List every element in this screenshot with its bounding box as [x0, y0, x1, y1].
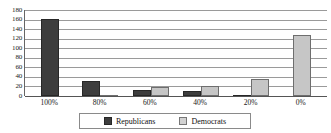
bar-group	[75, 10, 125, 96]
y-axis: 180160140120100806040200	[0, 0, 22, 104]
y-axis-tick-label: 40	[0, 73, 22, 80]
y-axis-tick-label: 180	[0, 7, 22, 14]
bar-republicans-100pct	[41, 19, 59, 96]
legend-label-democrats: Democrats	[191, 117, 226, 126]
bars-layer	[25, 10, 327, 96]
bar-group	[126, 10, 176, 96]
y-axis-tick-label: 160	[0, 16, 22, 23]
plot-wrapper: 180160140120100806040200 100%80%60%40%20…	[0, 0, 331, 104]
republicans-swatch-icon	[104, 117, 112, 125]
bar-chart: 180160140120100806040200 100%80%60%40%20…	[0, 0, 331, 133]
x-axis-tick-label: 40%	[193, 98, 207, 107]
bar-democrats-60pct	[151, 87, 169, 96]
bar-democrats-40pct	[201, 86, 219, 96]
x-axis: 100%80%60%40%20%0%	[24, 98, 326, 110]
y-axis-tick-label: 0	[0, 93, 22, 100]
x-axis-tick-label: 60%	[143, 98, 157, 107]
y-axis-tick-label: 140	[0, 26, 22, 33]
y-axis-tick-label: 20	[0, 83, 22, 90]
bar-republicans-60pct	[133, 90, 151, 96]
bar-democrats-0pct	[293, 35, 311, 96]
bar-group	[277, 10, 327, 96]
bar-group	[176, 10, 226, 96]
legend-entry-democrats: Democrats	[179, 117, 226, 126]
x-axis-tick-label: 20%	[244, 98, 258, 107]
legend-entry-republicans: Republicans	[104, 117, 156, 126]
bar-democrats-20pct	[251, 79, 269, 96]
bar-democrats-80pct	[100, 95, 118, 97]
y-axis-tick-label: 100	[0, 45, 22, 52]
x-axis-tick-label: 100%	[40, 98, 58, 107]
democrats-swatch-icon	[179, 117, 187, 125]
y-axis-tick-label: 120	[0, 35, 22, 42]
y-axis-tick-label: 60	[0, 64, 22, 71]
y-axis-tick-label: 80	[0, 54, 22, 61]
bar-group	[25, 10, 75, 96]
bar-group	[226, 10, 276, 96]
chart-legend: Republicans Democrats	[79, 113, 251, 129]
bar-republicans-20pct	[233, 95, 251, 97]
bar-republicans-40pct	[183, 91, 201, 96]
plot-area	[24, 10, 326, 96]
x-axis-tick-label: 80%	[93, 98, 107, 107]
axis-baseline	[25, 96, 327, 97]
legend-label-republicans: Republicans	[116, 117, 156, 126]
x-axis-tick-label: 0%	[296, 98, 306, 107]
bar-republicans-80pct	[82, 81, 100, 96]
